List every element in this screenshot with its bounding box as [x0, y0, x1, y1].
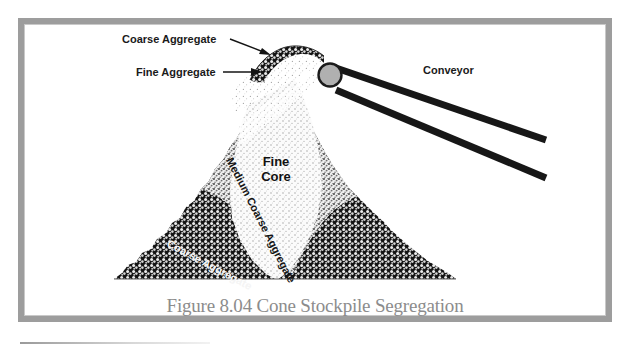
figure-page: Coarse Aggregate Fine Aggregate Conveyor…: [0, 0, 643, 348]
figure-caption: Figure 8.04 Cone Stockpile Segregation: [167, 295, 465, 316]
conveyor-head-pulley: [319, 64, 342, 87]
conveyor-assembly: [319, 64, 547, 179]
coarse-aggregate-arrowhead: [259, 48, 271, 55]
label-coarse-aggregate-top: Coarse Aggregate: [122, 33, 216, 45]
label-fine-core-line1: Fine: [263, 154, 290, 169]
label-fine-core-line2: Core: [261, 169, 291, 184]
page-bottom-rule: [20, 342, 210, 344]
cone-stockpile-diagram: Coarse Aggregate Fine Aggregate Conveyor…: [18, 18, 612, 322]
label-fine-aggregate-top: Fine Aggregate: [136, 66, 216, 78]
label-conveyor: Conveyor: [423, 64, 474, 76]
